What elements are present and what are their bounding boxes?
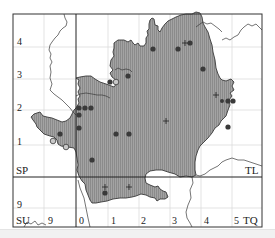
record-dot	[57, 131, 62, 136]
record-dot	[200, 66, 205, 71]
record-dot	[102, 190, 107, 195]
old-record	[113, 79, 119, 85]
distribution-map: 4 3 2 1 9 9 0 1 2 3 4 5 SP TL SU TQ	[0, 0, 275, 238]
label-tq: TQ	[243, 214, 258, 226]
label-tl: TL	[245, 164, 259, 176]
x-label-1: 1	[111, 215, 116, 226]
record-dot	[88, 105, 93, 110]
x-label-0: 0	[79, 215, 84, 226]
y-label-3: 3	[17, 69, 22, 80]
label-sp: SP	[16, 164, 28, 176]
record-dot	[76, 105, 81, 110]
old-record	[50, 138, 56, 144]
y-label-1: 1	[17, 136, 22, 147]
record-dot	[225, 98, 230, 103]
record-dot	[220, 99, 224, 103]
record-dot	[175, 46, 180, 51]
record-dot	[230, 98, 235, 103]
old-record	[63, 144, 69, 150]
record-dot	[76, 112, 81, 117]
record-dot	[82, 105, 87, 110]
y-label-2: 2	[17, 102, 22, 113]
record-dot	[126, 131, 131, 136]
record-dot	[187, 40, 192, 45]
record-dot	[225, 124, 230, 129]
x-axis-labels: 9 0 1 2 3 4 5	[48, 215, 239, 226]
record-dot	[113, 131, 118, 136]
bottom-band	[0, 229, 275, 238]
y-axis-labels: 4 3 2 1 9	[17, 36, 22, 210]
record-dot	[150, 46, 155, 51]
x-label-5: 5	[234, 215, 239, 226]
record-dot	[125, 73, 130, 78]
y-label-4: 4	[17, 36, 22, 47]
record-dot	[107, 79, 112, 84]
record-dot	[76, 125, 81, 130]
map-canvas: 4 3 2 1 9 9 0 1 2 3 4 5 SP TL SU TQ	[0, 0, 275, 238]
x-label-3: 3	[172, 215, 177, 226]
y-label-9: 9	[17, 199, 22, 210]
record-dot	[89, 157, 94, 162]
x-label-9: 9	[48, 215, 53, 226]
x-label-4: 4	[204, 215, 209, 226]
label-su: SU	[16, 214, 30, 226]
x-label-2: 2	[141, 215, 146, 226]
